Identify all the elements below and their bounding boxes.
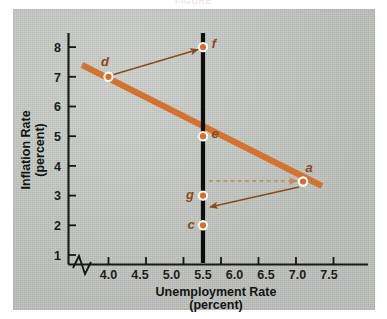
x-tick-label: 7.5 — [320, 268, 337, 282]
x-tick-label: 4.0 — [100, 268, 117, 282]
data-point-d[interactable] — [103, 72, 113, 82]
data-point-a[interactable] — [298, 176, 308, 186]
y-axis-tick-labels: 8 7 6 5 4 3 2 1 — [54, 41, 61, 263]
x-axis-title: Unemployment Rate (percent) — [156, 285, 277, 312]
x-tick-label: 6.0 — [226, 268, 243, 282]
x-tick-label: 6.5 — [257, 268, 274, 282]
x-axis-tick-labels: 4.0 4.5 5.0 5.5 6.0 6.5 7.0 7.5 — [100, 268, 338, 282]
y-tick-label: 1 — [54, 249, 61, 263]
y-tick-label: 3 — [54, 189, 61, 203]
data-points — [103, 42, 308, 231]
data-point-c[interactable] — [198, 220, 208, 230]
chart-svg-wrapper: 8 7 6 5 4 3 2 1 4.0 4.5 5.0 5.5 6.0 6.5 … — [0, 0, 387, 319]
point-label-g: g — [185, 187, 194, 202]
y-axis-title: Inflation Rate (percent) — [19, 110, 47, 189]
y-tick-label: 4 — [54, 160, 61, 174]
data-point-f[interactable] — [198, 42, 208, 52]
point-label-c: c — [187, 217, 195, 232]
y-tick-label: 6 — [54, 100, 61, 114]
y-tick-label: 7 — [54, 71, 61, 85]
y-axis-title-main: Inflation Rate — [19, 110, 33, 189]
y-tick-label: 8 — [54, 41, 61, 55]
y-axis-title-unit: (percent) — [33, 123, 47, 176]
point-label-e: e — [211, 126, 218, 141]
data-point-e[interactable] — [198, 131, 208, 141]
x-axis-title-unit: (percent) — [189, 298, 242, 312]
x-tick-label: 7.0 — [289, 268, 306, 282]
x-tick-label: 4.5 — [131, 268, 148, 282]
x-axis-title-main: Unemployment Rate — [156, 285, 277, 299]
y-axis-ticks — [69, 47, 77, 255]
x-tick-label: 5.0 — [163, 268, 180, 282]
point-label-a: a — [305, 160, 312, 175]
point-label-d: d — [101, 54, 110, 69]
arrow-a-to-c — [210, 187, 299, 207]
data-point-g[interactable] — [198, 190, 208, 200]
arrow-d-to-f — [112, 50, 198, 76]
y-tick-label: 2 — [54, 219, 61, 233]
figure-container: FIGURE — [0, 0, 387, 319]
y-tick-label: 5 — [54, 130, 61, 144]
point-label-f: f — [212, 36, 218, 51]
chart-axes — [69, 33, 369, 274]
x-axis-ticks — [109, 257, 334, 265]
x-tick-label: 5.5 — [194, 268, 211, 282]
